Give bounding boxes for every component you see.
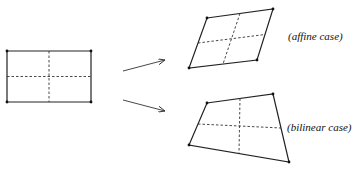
affine-element: [188, 8, 275, 70]
vertex-dot: [90, 101, 93, 104]
vertex-dot: [288, 161, 291, 164]
bilinear-label: (bilinear case): [287, 121, 352, 134]
bilinear-outline: [189, 94, 289, 162]
vertex-dot: [90, 50, 93, 53]
vertex-dot: [6, 50, 9, 53]
reference-square: [6, 50, 93, 104]
arrow-to-affine: [123, 60, 165, 71]
bilinear-element: [188, 93, 291, 164]
vertex-dot: [272, 8, 275, 11]
vertex-dot: [256, 59, 259, 62]
affine-horizontal-midline: [198, 35, 265, 44]
arrow-to-bilinear: [123, 100, 165, 111]
vertex-dot: [6, 101, 9, 104]
affine-label: (affine case): [288, 30, 343, 43]
diagram-canvas: (affine case) (bilinear case): [0, 0, 359, 169]
vertex-dot: [206, 17, 209, 20]
vertex-dot: [272, 93, 275, 96]
vertex-dot: [188, 67, 191, 70]
vertex-dot: [188, 144, 191, 147]
vertex-dot: [206, 102, 209, 105]
